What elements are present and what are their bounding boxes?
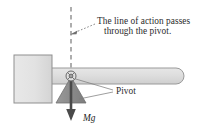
physics-figure-hammer-pivot: The line of action passes through the pi… xyxy=(0,0,206,134)
pivot-leader-line-lower xyxy=(79,92,113,99)
annotation-text-line-2: through the pivot. xyxy=(104,26,171,36)
hammer-head xyxy=(14,55,52,103)
weight-label: Mg xyxy=(83,113,96,123)
pivot-marker-inner-dot xyxy=(69,74,73,78)
weight-force-arrow-head xyxy=(66,109,76,121)
annotation-text-line-1: The line of action passes xyxy=(97,16,190,26)
annotation-leader-arrow xyxy=(76,24,95,32)
pivot-label: Pivot xyxy=(116,86,136,96)
hammer-handle xyxy=(44,68,184,84)
